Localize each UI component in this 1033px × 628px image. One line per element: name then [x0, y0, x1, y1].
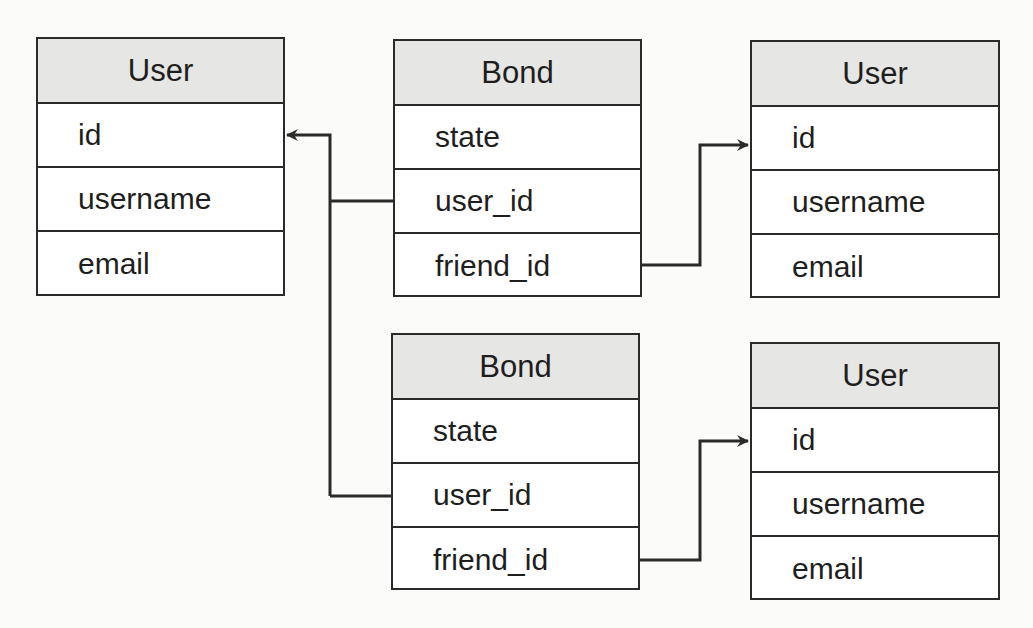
field-user-id: user_id	[393, 464, 638, 528]
field-state: state	[393, 400, 638, 464]
field-id: id	[752, 107, 998, 171]
field-id: id	[38, 104, 283, 168]
entity-title: User	[752, 42, 998, 107]
entity-title: User	[38, 39, 283, 104]
field-user-id: user_id	[395, 170, 640, 234]
entity-user-right-bottom: User id username email	[750, 342, 1000, 600]
field-username: username	[752, 473, 998, 537]
entity-user-right-top: User id username email	[750, 40, 1000, 298]
entity-user-left: User id username email	[36, 37, 285, 296]
connector-bond-top-friend-id	[641, 145, 748, 265]
field-email: email	[752, 235, 998, 299]
entity-title: Bond	[393, 335, 638, 400]
entity-title: User	[752, 344, 998, 409]
field-username: username	[752, 171, 998, 235]
connector-user-id-trunk	[287, 135, 330, 496]
entity-bond-bottom: Bond state user_id friend_id	[391, 333, 640, 590]
field-id: id	[752, 409, 998, 473]
entity-bond-top: Bond state user_id friend_id	[393, 39, 642, 297]
field-email: email	[752, 537, 998, 601]
field-email: email	[38, 232, 283, 296]
field-state: state	[395, 106, 640, 170]
field-username: username	[38, 168, 283, 232]
field-friend-id: friend_id	[393, 528, 638, 592]
entity-title: Bond	[395, 41, 640, 106]
connector-bond-bottom-friend-id	[640, 441, 748, 560]
field-friend-id: friend_id	[395, 234, 640, 298]
